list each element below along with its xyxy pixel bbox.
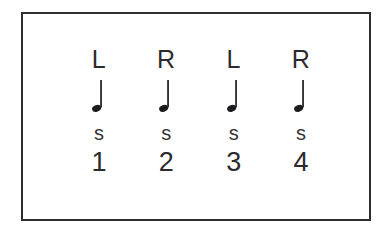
quarter-note-icon [290,74,312,120]
notation-column: R s 2 [142,44,190,178]
stroke-letter: s [161,120,171,146]
quarter-note-icon [88,74,110,120]
count-number: 1 [91,146,106,178]
notation-column: R s 4 [277,44,325,178]
notation-column: L s 1 [75,44,123,178]
stroke-letter: s [229,120,239,146]
stroke-letter: s [296,120,306,146]
count-number: 4 [293,146,308,178]
hand-letter: L [226,44,240,74]
notation-column: L s 3 [210,44,258,178]
page-root: L s 1 R s [0,0,391,230]
quarter-note-icon [155,74,177,120]
notation-columns: L s 1 R s [75,44,325,204]
quarter-note-icon [223,74,245,120]
stroke-letter: s [94,120,104,146]
hand-letter: R [292,44,311,74]
hand-letter: L [92,44,106,74]
hand-letter: R [157,44,176,74]
count-number: 2 [159,146,174,178]
notation-frame: L s 1 R s [21,12,371,221]
count-number: 3 [226,146,241,178]
